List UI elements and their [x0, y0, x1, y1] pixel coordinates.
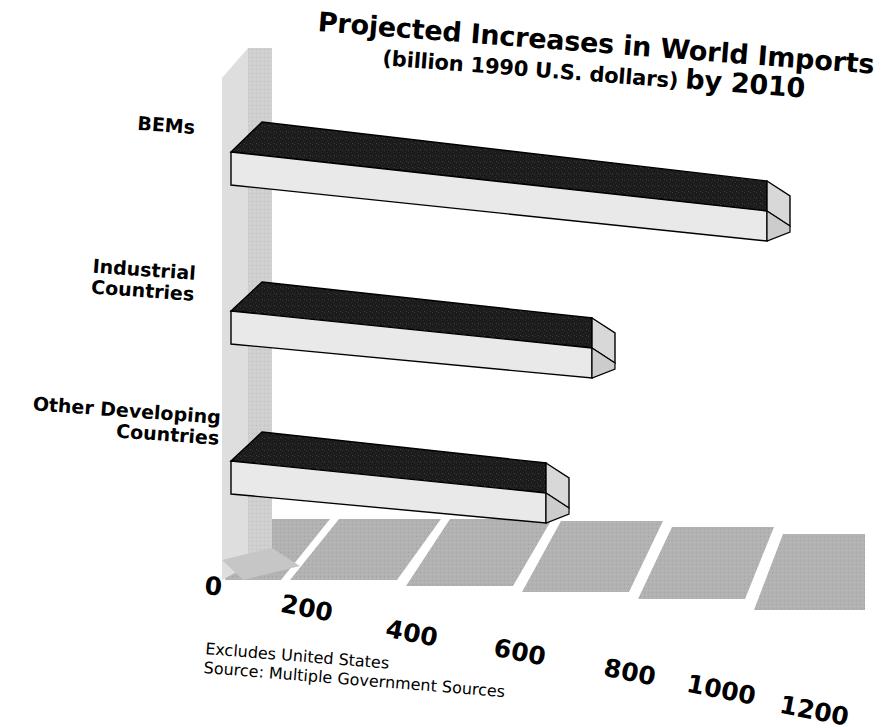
bar-industrial-countries[interactable] [231, 282, 615, 378]
bar-bems[interactable] [231, 122, 790, 241]
floor-band [638, 527, 774, 599]
bar-other-developing-countries[interactable] [231, 432, 569, 523]
floor-band [754, 534, 865, 610]
x-tick-label-0: 0 [203, 571, 223, 601]
